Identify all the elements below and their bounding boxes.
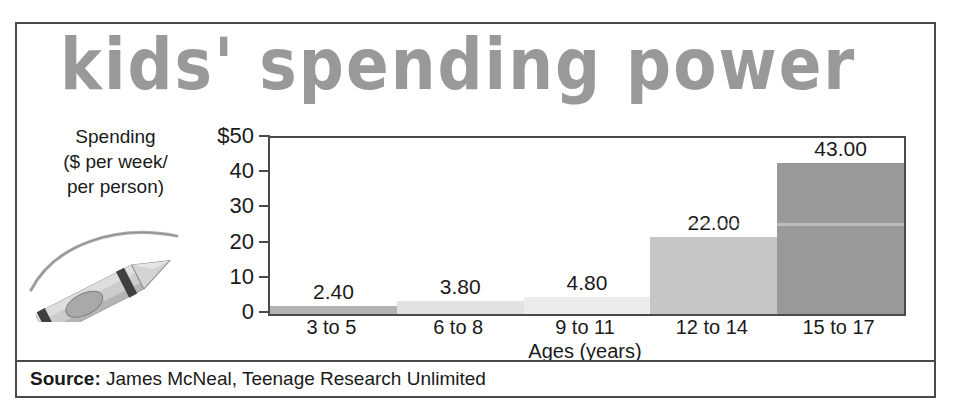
x-axis-category-label: 3 to 5 [268, 316, 395, 339]
bar-rect [777, 163, 904, 314]
y-axis-caption: Spending ($ per week/ per person) [28, 124, 203, 199]
y-axis-tick-label: 20 [230, 231, 254, 253]
bar-group: 2.40 [270, 138, 397, 314]
bar-value-label: 43.00 [781, 137, 901, 161]
y-axis-tick-label: 30 [230, 195, 254, 217]
bar-rect [650, 237, 777, 314]
bar-group: 4.80 [524, 138, 651, 314]
crayon-icon [25, 222, 190, 322]
chart-title: kids' spending power [60, 30, 940, 101]
bar-rect [397, 301, 524, 314]
x-axis-categories: 3 to 56 to 89 to 1112 to 1415 to 17 [268, 316, 902, 339]
y-axis-tick-label: 40 [230, 160, 254, 182]
bar-group: 43.00 [777, 138, 904, 314]
bar-value-label: 2.40 [273, 280, 393, 304]
bar-value-label: 3.80 [400, 275, 520, 299]
bar-value-label: 22.00 [654, 211, 774, 235]
y-axis-caption-line-1: Spending [28, 124, 203, 149]
bar-rect [270, 306, 397, 314]
bar-rect [524, 297, 651, 314]
y-axis: $50403020100 [200, 124, 270, 324]
source-line: Source: James McNeal, Teenage Research U… [30, 368, 486, 390]
x-axis-category-label: 9 to 11 [522, 316, 649, 339]
plot-area: 2.403.804.8022.0043.00 [268, 136, 906, 316]
bar-group: 22.00 [650, 138, 777, 314]
y-axis-tick-label: $50 [217, 125, 254, 147]
source-divider [17, 360, 934, 362]
y-axis-tick-label: 0 [242, 301, 254, 323]
bar-value-label: 4.80 [527, 271, 647, 295]
source-label: Source: [30, 368, 101, 389]
y-axis-tick-label: 10 [230, 266, 254, 288]
x-axis-category-label: 15 to 17 [775, 316, 902, 339]
x-axis-category-label: 12 to 14 [648, 316, 775, 339]
source-text: James McNeal, Teenage Research Unlimited [101, 368, 486, 389]
y-axis-caption-line-2: ($ per week/ [28, 149, 203, 174]
bars-layer: 2.403.804.8022.0043.00 [270, 138, 904, 314]
y-axis-caption-line-3: per person) [28, 174, 203, 199]
bar-group: 3.80 [397, 138, 524, 314]
x-axis-category-label: 6 to 8 [395, 316, 522, 339]
